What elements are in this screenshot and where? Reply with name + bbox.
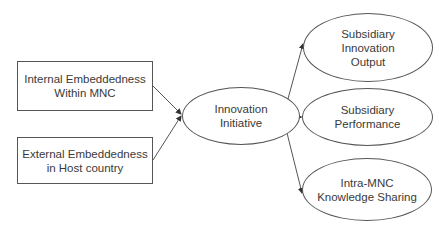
node-innovation-initiative: Innovation Initiative: [182, 87, 300, 145]
node-label-line: Internal Embeddedness: [24, 72, 145, 86]
edge-internal-to-innovation: [153, 86, 181, 114]
node-label-line: External Embeddedness: [22, 147, 147, 161]
node-label-line: Innovation: [214, 102, 267, 116]
node-label-line: Knowledge Sharing: [317, 190, 417, 204]
node-subsidiary-performance: Subsidiary Performance: [302, 88, 433, 146]
node-label-line: Within MNC: [24, 86, 145, 100]
edge-external-to-innovation: [153, 116, 181, 160]
node-label-line: Innovation: [341, 41, 395, 55]
node-external-embeddedness: External Embeddedness in Host country: [17, 137, 153, 184]
node-intra-mnc-knowledge-sharing: Intra-MNC Knowledge Sharing: [302, 158, 432, 221]
node-label-line: Subsidiary: [335, 103, 401, 117]
node-label-line: Subsidiary: [341, 27, 395, 41]
node-subsidiary-innovation-output: Subsidiary Innovation Output: [303, 13, 433, 82]
node-label-line: Intra-MNC: [317, 176, 417, 190]
node-label-line: Initiative: [214, 116, 267, 130]
node-internal-embeddedness: Internal Embeddedness Within MNC: [17, 61, 153, 111]
node-label-line: in Host country: [22, 161, 147, 175]
node-label-line: Performance: [335, 117, 401, 131]
node-label-line: Output: [341, 55, 395, 69]
